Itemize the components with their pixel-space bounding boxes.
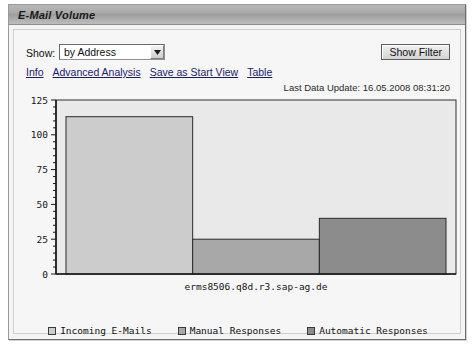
links-row: Info Advanced Analysis Save as Start Vie… <box>26 66 272 78</box>
chart-legend: Incoming E-Mails Manual Responses Automa… <box>24 325 452 336</box>
window-title: E-Mail Volume <box>9 9 95 21</box>
bar-chart: 0255075100125 erms8506.q8d.r3.sap-ag.de … <box>24 94 452 342</box>
controls-row: Show: by Address Show Filter <box>26 44 450 62</box>
link-info[interactable]: Info <box>26 66 44 78</box>
x-axis-label: erms8506.q8d.r3.sap-ag.de <box>185 281 328 292</box>
show-dropdown[interactable]: by Address <box>59 44 165 60</box>
link-advanced-analysis[interactable]: Advanced Analysis <box>53 66 141 78</box>
show-label: Show: <box>26 47 55 59</box>
y-axis-tick-label: 25 <box>37 234 48 245</box>
bar[interactable] <box>193 239 320 274</box>
legend-label-manual: Manual Responses <box>190 325 282 336</box>
legend-item-incoming: Incoming E-Mails <box>48 325 152 336</box>
window-title-bar: E-Mail Volume <box>9 5 465 25</box>
y-axis-tick-label: 125 <box>31 95 48 106</box>
legend-label-automatic: Automatic Responses <box>319 325 428 336</box>
legend-swatch-incoming <box>48 327 56 335</box>
show-dropdown-value: by Address <box>60 46 150 58</box>
bar[interactable] <box>66 117 193 274</box>
legend-item-automatic: Automatic Responses <box>307 325 428 336</box>
y-axis-tick-label: 50 <box>37 199 49 210</box>
legend-label-incoming: Incoming E-Mails <box>60 325 152 336</box>
chart-canvas: 0255075100125 erms8506.q8d.r3.sap-ag.de <box>24 94 464 316</box>
y-axis-tick-label: 100 <box>31 129 48 140</box>
link-table[interactable]: Table <box>247 66 272 78</box>
window-body: Show: by Address Show Filter Info Advanc… <box>9 25 465 339</box>
content-panel: Show: by Address Show Filter Info Advanc… <box>13 29 461 334</box>
link-save-as-start-view[interactable]: Save as Start View <box>150 66 239 78</box>
legend-swatch-automatic <box>307 327 315 335</box>
legend-swatch-manual <box>178 327 186 335</box>
y-axis-tick-label: 75 <box>37 164 48 175</box>
y-axis-tick-label: 0 <box>42 269 48 280</box>
email-volume-window: E-Mail Volume Show: by Address Show Filt… <box>8 4 466 340</box>
last-data-update: Last Data Update: 16.05.2008 08:31:20 <box>284 82 450 93</box>
chevron-down-icon[interactable] <box>150 45 164 59</box>
legend-item-manual: Manual Responses <box>178 325 282 336</box>
show-filter-button[interactable]: Show Filter <box>381 44 450 60</box>
bar[interactable] <box>319 218 446 274</box>
y-axis-tick-labels: 0255075100125 <box>31 95 48 280</box>
